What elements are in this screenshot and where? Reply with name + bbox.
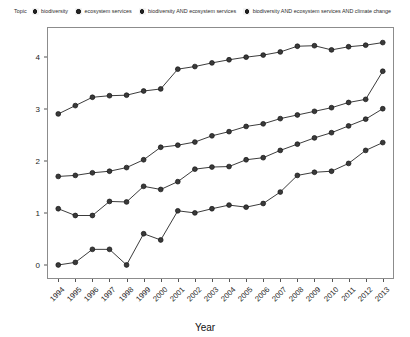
data-point[interactable]	[329, 47, 334, 52]
data-point[interactable]	[210, 206, 215, 211]
series-line	[58, 43, 383, 114]
x-tick-mark	[349, 279, 350, 282]
data-point[interactable]	[312, 136, 317, 141]
data-point[interactable]	[175, 179, 180, 184]
y-tick-label: 0	[18, 260, 40, 269]
x-tick-mark	[314, 279, 315, 282]
data-point[interactable]	[175, 67, 180, 72]
data-point[interactable]	[107, 169, 112, 174]
plot-area	[48, 28, 393, 278]
data-point[interactable]	[175, 143, 180, 148]
data-point[interactable]	[141, 157, 146, 162]
data-point[interactable]	[363, 43, 368, 48]
data-point[interactable]	[158, 238, 163, 243]
data-point[interactable]	[158, 87, 163, 92]
data-point[interactable]	[363, 117, 368, 122]
data-point[interactable]	[244, 157, 249, 162]
circle-marker-icon	[139, 8, 146, 15]
data-point[interactable]	[227, 57, 232, 62]
data-point[interactable]	[141, 89, 146, 94]
x-tick-mark	[195, 279, 196, 282]
legend-item-ecosystem-services[interactable]: ecosystem services	[75, 8, 132, 15]
data-point[interactable]	[124, 165, 129, 170]
data-point[interactable]	[244, 205, 249, 210]
data-point[interactable]	[90, 247, 95, 252]
data-point[interactable]	[329, 130, 334, 135]
data-point[interactable]	[73, 103, 78, 108]
data-point[interactable]	[107, 199, 112, 204]
data-point[interactable]	[295, 44, 300, 49]
data-point[interactable]	[90, 213, 95, 218]
data-point[interactable]	[295, 142, 300, 147]
series-0	[56, 40, 385, 116]
data-point[interactable]	[312, 170, 317, 175]
data-point[interactable]	[346, 100, 351, 105]
data-point[interactable]	[261, 155, 266, 160]
data-point[interactable]	[363, 148, 368, 153]
data-point[interactable]	[278, 50, 283, 55]
data-point[interactable]	[380, 69, 385, 74]
data-point[interactable]	[124, 200, 129, 205]
data-point[interactable]	[141, 184, 146, 189]
x-tick-mark	[212, 279, 213, 282]
data-point[interactable]	[261, 53, 266, 58]
data-point[interactable]	[56, 263, 61, 268]
data-point[interactable]	[158, 145, 163, 150]
data-point[interactable]	[329, 169, 334, 174]
series-3	[56, 140, 385, 267]
plot-panel	[47, 27, 394, 279]
y-tick-label: 2	[18, 156, 40, 165]
data-point[interactable]	[158, 187, 163, 192]
data-point[interactable]	[244, 124, 249, 129]
data-point[interactable]	[261, 121, 266, 126]
data-point[interactable]	[346, 44, 351, 49]
data-point[interactable]	[124, 93, 129, 98]
data-point[interactable]	[192, 140, 197, 145]
data-point[interactable]	[244, 55, 249, 60]
data-point[interactable]	[56, 206, 61, 211]
data-point[interactable]	[278, 148, 283, 153]
legend-item-biodiversity-and-ecosystem-services-and-climate-change[interactable]: biodiversity AND ecosystem services AND …	[243, 8, 391, 15]
data-point[interactable]	[90, 95, 95, 100]
data-point[interactable]	[124, 263, 129, 268]
y-tick-label: 1	[18, 208, 40, 217]
data-point[interactable]	[312, 43, 317, 48]
data-point[interactable]	[210, 61, 215, 66]
legend-item-biodiversity[interactable]: biodiversity	[32, 8, 68, 15]
data-point[interactable]	[380, 40, 385, 45]
data-point[interactable]	[227, 129, 232, 134]
data-point[interactable]	[363, 97, 368, 102]
data-point[interactable]	[192, 64, 197, 69]
x-tick-mark	[127, 279, 128, 282]
data-point[interactable]	[227, 203, 232, 208]
x-tick-mark	[297, 279, 298, 282]
data-point[interactable]	[312, 109, 317, 114]
data-point[interactable]	[192, 211, 197, 216]
data-point[interactable]	[175, 208, 180, 213]
data-point[interactable]	[295, 113, 300, 118]
data-point[interactable]	[56, 112, 61, 117]
data-point[interactable]	[90, 170, 95, 175]
data-point[interactable]	[73, 260, 78, 265]
data-point[interactable]	[346, 124, 351, 129]
data-point[interactable]	[380, 140, 385, 145]
data-point[interactable]	[227, 164, 232, 169]
y-tick-label: 4	[18, 52, 40, 61]
data-point[interactable]	[73, 173, 78, 178]
data-point[interactable]	[73, 213, 78, 218]
data-point[interactable]	[56, 174, 61, 179]
data-point[interactable]	[210, 133, 215, 138]
data-point[interactable]	[107, 247, 112, 252]
data-point[interactable]	[210, 165, 215, 170]
data-point[interactable]	[380, 106, 385, 111]
data-point[interactable]	[346, 161, 351, 166]
data-point[interactable]	[107, 93, 112, 98]
data-point[interactable]	[278, 190, 283, 195]
data-point[interactable]	[295, 173, 300, 178]
data-point[interactable]	[329, 105, 334, 110]
data-point[interactable]	[261, 201, 266, 206]
legend-item-biodiversity-and-ecosystem-services[interactable]: biodiversity AND ecosystem services	[139, 8, 237, 15]
data-point[interactable]	[192, 167, 197, 172]
data-point[interactable]	[278, 116, 283, 121]
data-point[interactable]	[141, 231, 146, 236]
